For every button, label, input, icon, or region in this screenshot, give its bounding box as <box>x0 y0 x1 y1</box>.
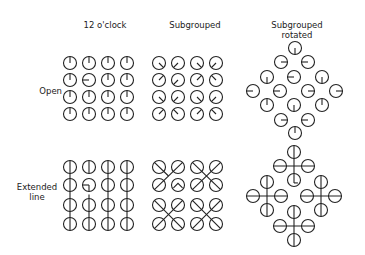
column-header-line-2: rotated <box>262 30 332 40</box>
radius-line <box>159 75 164 80</box>
row-label-line-2: line <box>14 192 60 202</box>
radius-line <box>211 97 216 102</box>
radius-line <box>211 109 216 114</box>
column-header-12-oclock: 12 o'clock <box>70 20 140 30</box>
radius-line <box>159 109 164 114</box>
column-header-line-1: Subgrouped <box>262 20 332 30</box>
row-label-open: Open <box>22 86 62 96</box>
column-header-subgrouped: Subgrouped <box>160 20 230 30</box>
radius-line <box>197 109 202 114</box>
radius-line <box>173 80 178 85</box>
diagonal-line <box>154 162 168 176</box>
chevron-line <box>173 183 182 188</box>
row-label-extended-line: Extended line <box>14 182 60 202</box>
radius-line <box>197 97 202 102</box>
column-header-subgrouped-rotated: Subgrouped rotated <box>262 20 332 40</box>
figure: 12 o'clock Subgrouped Subgrouped rotated… <box>0 0 365 255</box>
radius-line <box>173 109 178 114</box>
radius-line <box>197 75 202 80</box>
radius-line <box>211 63 216 68</box>
radius-line <box>173 63 178 68</box>
radius-line <box>173 97 178 102</box>
radius-line <box>211 75 216 80</box>
radius-line <box>197 63 202 68</box>
row-label-line-1: Extended <box>14 182 60 192</box>
radius-line <box>159 97 164 102</box>
circle-element <box>172 179 185 192</box>
radius-line <box>159 63 164 68</box>
